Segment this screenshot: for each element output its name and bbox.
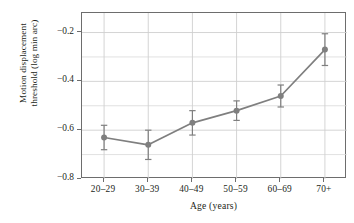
y-axis-tick-label: −0.8	[40, 172, 74, 182]
x-axis-tick-mark	[147, 178, 148, 182]
x-axis-tick-mark	[279, 178, 280, 182]
y-axis-title-line-1: Motion displacement	[18, 0, 29, 138]
y-axis-title-line-2: threshold (log min arc)	[29, 0, 40, 138]
plot-area	[81, 12, 346, 178]
x-axis-tick-label: 70+	[294, 184, 354, 194]
x-axis-tick-mark	[191, 178, 192, 182]
y-axis-tick-label: −0.4	[40, 74, 74, 84]
plot-canvas	[82, 13, 347, 179]
x-axis-tick-mark	[323, 178, 324, 182]
y-axis-tick-label: −0.6	[40, 123, 74, 133]
data-point-marker	[278, 93, 284, 99]
x-axis-title: Age (years)	[81, 200, 346, 211]
y-axis-tick-mark	[77, 178, 81, 179]
y-axis-tick-mark	[77, 80, 81, 81]
data-point-marker	[145, 142, 151, 148]
x-axis-tick-mark	[103, 178, 104, 182]
data-point-marker	[322, 47, 328, 53]
y-axis-tick-mark	[77, 31, 81, 32]
data-point-marker	[189, 120, 195, 126]
y-axis-tick-label: −0.2	[40, 26, 74, 36]
y-axis-title: Motion displacement threshold (log min a…	[18, 0, 40, 138]
data-point-marker	[234, 108, 240, 114]
data-point-marker	[101, 135, 107, 141]
x-axis-tick-mark	[235, 178, 236, 182]
chart-figure: Motion displacement threshold (log min a…	[0, 0, 354, 223]
y-axis-tick-mark	[77, 129, 81, 130]
